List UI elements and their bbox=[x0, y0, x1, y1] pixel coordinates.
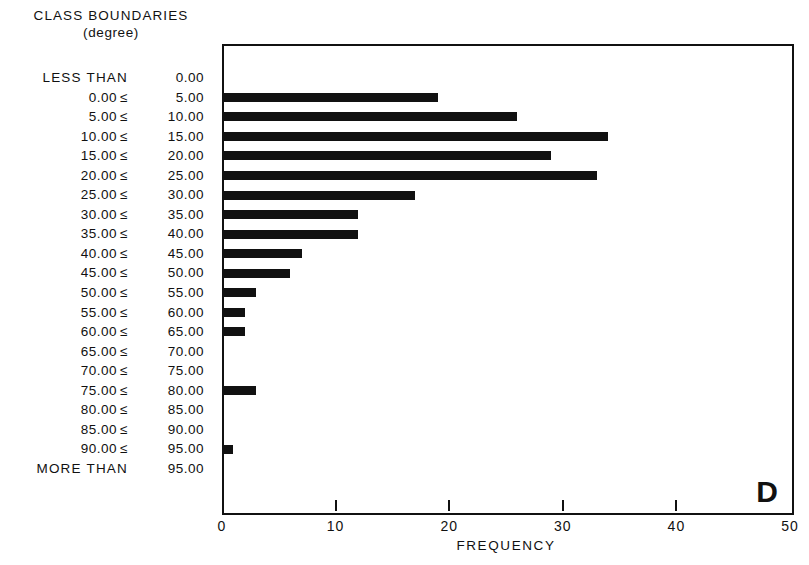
less-or-equal-icon: ≤ bbox=[120, 305, 128, 320]
bar-row bbox=[222, 322, 790, 342]
class-upper-bound: 50.00 bbox=[134, 263, 216, 283]
class-boundary-row: 25.00≤30.00 bbox=[0, 185, 216, 205]
class-boundary-row: 20.00≤25.00 bbox=[0, 166, 216, 186]
frequency-bar bbox=[222, 93, 438, 102]
frequency-bar bbox=[222, 269, 290, 278]
class-lower-bound: 70.00≤ bbox=[6, 361, 134, 381]
class-lower-bound: 25.00≤ bbox=[6, 185, 134, 205]
less-or-equal-icon: ≤ bbox=[120, 226, 128, 241]
chart-caption: CLASS BOUNDARIES (degree) bbox=[0, 8, 222, 40]
class-lower-bound: 35.00≤ bbox=[6, 224, 134, 244]
class-upper-bound: 15.00 bbox=[134, 127, 216, 147]
class-lower-bound: 5.00≤ bbox=[6, 107, 134, 127]
class-boundary-row: 15.00≤20.00 bbox=[0, 146, 216, 166]
class-upper-bound: 80.00 bbox=[134, 381, 216, 401]
less-or-equal-icon: ≤ bbox=[120, 422, 128, 437]
class-lower-bound: 20.00≤ bbox=[6, 166, 134, 186]
less-or-equal-icon: ≤ bbox=[120, 285, 128, 300]
x-axis-tick-label: 30 bbox=[554, 518, 572, 534]
class-upper-bound: 25.00 bbox=[134, 166, 216, 186]
less-or-equal-icon: ≤ bbox=[120, 187, 128, 202]
class-lower-bound: 75.00≤ bbox=[6, 381, 134, 401]
frequency-bar bbox=[222, 210, 358, 219]
class-boundary-row: 65.00≤70.00 bbox=[0, 342, 216, 362]
frequency-bar bbox=[222, 112, 517, 121]
x-axis-tick-label: 50 bbox=[781, 518, 799, 534]
x-axis-title: FREQUENCY bbox=[222, 538, 790, 553]
x-axis-tick bbox=[562, 500, 564, 511]
bars-layer bbox=[222, 44, 790, 511]
bar-row bbox=[222, 107, 790, 127]
less-or-equal-icon: ≤ bbox=[120, 148, 128, 163]
frequency-bar bbox=[222, 327, 245, 336]
class-upper-bound: 55.00 bbox=[134, 283, 216, 303]
class-lower-bound: 15.00≤ bbox=[6, 146, 134, 166]
x-axis-tick-label: 0 bbox=[218, 518, 227, 534]
bar-row bbox=[222, 264, 790, 284]
class-lower-bound: 55.00≤ bbox=[6, 303, 134, 323]
class-lower-bound: 60.00≤ bbox=[6, 322, 134, 342]
bar-row bbox=[222, 224, 790, 244]
less-or-equal-icon: ≤ bbox=[120, 109, 128, 124]
frequency-bar bbox=[222, 191, 415, 200]
less-or-equal-icon: ≤ bbox=[120, 363, 128, 378]
class-boundary-row: 5.00≤10.00 bbox=[0, 107, 216, 127]
class-lower-bound: 80.00≤ bbox=[6, 400, 134, 420]
class-lower-bound: LESS THAN bbox=[6, 68, 134, 88]
less-or-equal-icon: ≤ bbox=[120, 383, 128, 398]
page-title: CLASS BOUNDARIES bbox=[0, 8, 222, 23]
x-axis-tick-label: 20 bbox=[440, 518, 458, 534]
bar-row bbox=[222, 146, 790, 166]
caption-units: (degree) bbox=[0, 25, 222, 40]
class-upper-bound: 40.00 bbox=[134, 224, 216, 244]
histogram-figure: CLASS BOUNDARIES (degree) LESS THAN0.000… bbox=[0, 0, 809, 565]
class-upper-bound: 10.00 bbox=[134, 107, 216, 127]
class-boundary-row: 30.00≤35.00 bbox=[0, 205, 216, 225]
frequency-bar bbox=[222, 230, 358, 239]
class-boundary-row: 45.00≤50.00 bbox=[0, 263, 216, 283]
bar-row bbox=[222, 303, 790, 323]
less-or-equal-icon: ≤ bbox=[120, 207, 128, 222]
less-or-equal-icon: ≤ bbox=[120, 90, 128, 105]
class-upper-bound: 85.00 bbox=[134, 400, 216, 420]
x-axis-tick bbox=[675, 500, 677, 511]
class-upper-bound: 0.00 bbox=[134, 68, 216, 88]
bar-row bbox=[222, 283, 790, 303]
less-or-equal-icon: ≤ bbox=[120, 246, 128, 261]
class-boundary-row: 85.00≤90.00 bbox=[0, 420, 216, 440]
x-axis-tick-label: 10 bbox=[327, 518, 345, 534]
frequency-bar bbox=[222, 308, 245, 317]
bar-row bbox=[222, 205, 790, 225]
bar-row bbox=[222, 244, 790, 264]
frequency-bar bbox=[222, 151, 551, 160]
x-axis-tick bbox=[335, 500, 337, 511]
bar-row bbox=[222, 88, 790, 108]
less-or-equal-icon: ≤ bbox=[120, 344, 128, 359]
class-boundary-row: MORE THAN95.00 bbox=[0, 459, 216, 479]
class-lower-bound: 85.00≤ bbox=[6, 420, 134, 440]
bar-row bbox=[222, 185, 790, 205]
bar-row bbox=[222, 166, 790, 186]
class-boundary-row: 80.00≤85.00 bbox=[0, 400, 216, 420]
frequency-bar bbox=[222, 132, 608, 141]
frequency-bar bbox=[222, 386, 256, 395]
class-boundary-row: 55.00≤60.00 bbox=[0, 303, 216, 323]
class-lower-bound: 65.00≤ bbox=[6, 342, 134, 362]
bar-row bbox=[222, 127, 790, 147]
less-or-equal-icon: ≤ bbox=[120, 324, 128, 339]
less-or-equal-icon: ≤ bbox=[120, 168, 128, 183]
class-boundary-row: 70.00≤75.00 bbox=[0, 361, 216, 381]
class-upper-bound: 35.00 bbox=[134, 205, 216, 225]
less-or-equal-icon: ≤ bbox=[120, 129, 128, 144]
x-axis-tick bbox=[448, 500, 450, 511]
class-boundary-row: 40.00≤45.00 bbox=[0, 244, 216, 264]
class-lower-bound: 10.00≤ bbox=[6, 127, 134, 147]
class-lower-bound: 45.00≤ bbox=[6, 263, 134, 283]
class-upper-bound: 70.00 bbox=[134, 342, 216, 362]
x-axis-tick-label: 40 bbox=[668, 518, 686, 534]
class-lower-bound: 30.00≤ bbox=[6, 205, 134, 225]
class-upper-bound: 30.00 bbox=[134, 185, 216, 205]
class-lower-bound: 90.00≤ bbox=[6, 439, 134, 459]
class-upper-bound: 95.00 bbox=[134, 439, 216, 459]
class-upper-bound: 75.00 bbox=[134, 361, 216, 381]
